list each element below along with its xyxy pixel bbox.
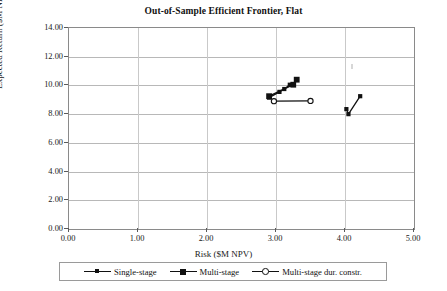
x-axis-label: Risk ($M NPV) — [0, 249, 447, 259]
y-tick-label: 6.00 — [17, 137, 63, 146]
x-tick-label: 1.00 — [112, 234, 162, 243]
x-tick-mark — [68, 228, 69, 232]
y-tick-mark — [64, 142, 68, 143]
y-tick-mark — [64, 113, 68, 114]
data-point-marker — [358, 94, 362, 98]
y-tick-mark — [64, 171, 68, 172]
legend-entry: Single-stage — [84, 267, 156, 277]
x-tick-label: 2.00 — [181, 234, 231, 243]
data-point-marker — [290, 82, 296, 88]
legend-label: Multi-stage — [200, 267, 240, 277]
x-tick-mark — [206, 228, 207, 232]
legend-entry: Multi-stage — [170, 267, 240, 277]
data-point-marker — [266, 93, 272, 99]
y-tick-mark — [64, 27, 68, 28]
x-tick-mark — [413, 228, 414, 232]
y-tick-mark — [64, 84, 68, 85]
y-tick-label: 14.00 — [17, 23, 63, 32]
data-point-marker — [308, 98, 313, 103]
x-tick-mark — [137, 228, 138, 232]
plot-area — [68, 27, 415, 230]
y-tick-label: 8.00 — [17, 109, 63, 118]
y-tick-label: 4.00 — [17, 166, 63, 175]
y-tick-mark — [64, 199, 68, 200]
data-point-marker — [271, 99, 276, 104]
data-point-marker — [346, 112, 350, 116]
series-line — [346, 96, 360, 114]
x-tick-label: 5.00 — [388, 234, 438, 243]
legend-label: Single-stage — [114, 267, 156, 277]
x-tick-label: 3.00 — [250, 234, 300, 243]
x-tick-mark — [344, 228, 345, 232]
y-tick-mark — [64, 56, 68, 57]
chart-title: Out-of-Sample Efficient Frontier, Flat — [0, 6, 447, 16]
legend-marker-icon — [252, 267, 279, 276]
series-multi-stage-dur-constr — [271, 98, 313, 103]
legend-entry: Multi-stage dur. constr. — [252, 267, 362, 277]
x-tick-label: 0.00 — [43, 234, 93, 243]
y-tick-label: 12.00 — [17, 51, 63, 60]
y-axis-label: Expected Return ($M NPV) — [0, 0, 4, 128]
y-tick-label: 0.00 — [17, 224, 63, 233]
data-series-layer — [69, 28, 414, 229]
legend-marker-icon — [84, 267, 111, 276]
data-point-marker — [294, 77, 300, 83]
chart-figure: Out-of-Sample Efficient Frontier, Flat E… — [0, 0, 447, 291]
data-point-marker — [344, 107, 348, 111]
x-tick-label: 4.00 — [319, 234, 369, 243]
scan-artifact — [351, 64, 353, 69]
chart-legend: Single-stageMulti-stageMulti-stage dur. … — [59, 262, 387, 281]
y-tick-label: 10.00 — [17, 80, 63, 89]
y-tick-label: 2.00 — [17, 195, 63, 204]
legend-marker-icon — [170, 267, 197, 276]
x-tick-mark — [275, 228, 276, 232]
legend-label: Multi-stage dur. constr. — [282, 267, 362, 277]
series-single-stage — [267, 83, 362, 117]
